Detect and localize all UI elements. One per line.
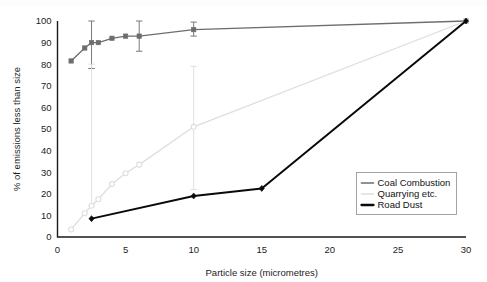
- legend-label-coal-combustion: Coal Combustion: [378, 177, 451, 188]
- y-axis-tick-label: 90: [41, 37, 52, 48]
- x-axis-tick-label: 5: [123, 244, 128, 255]
- x-axis-tick-label: 20: [325, 244, 336, 255]
- y-axis-tick-label: 100: [36, 15, 52, 26]
- legend-label-quarrying-etc: Quarrying etc.: [378, 188, 438, 199]
- y-axis-tick-label: 10: [41, 210, 52, 221]
- y-axis-tick-label: 20: [41, 188, 52, 199]
- data-point-marker: [123, 171, 128, 176]
- error-bar: [88, 64, 94, 205]
- data-point-marker: [137, 162, 142, 167]
- data-point-marker: [69, 227, 74, 232]
- data-point-marker: [109, 182, 114, 187]
- data-point-marker: [89, 203, 94, 208]
- data-point-marker: [83, 46, 87, 50]
- data-point-marker: [82, 211, 87, 216]
- data-point-marker: [191, 124, 196, 129]
- y-axis-tick-label: 50: [41, 123, 52, 134]
- data-point-marker: [137, 34, 141, 38]
- x-axis-title: Particle size (micrometres): [206, 267, 318, 278]
- data-point-marker: [96, 197, 101, 202]
- data-point-marker: [96, 40, 100, 44]
- chart-container: 0102030405060708090100051015202530Partic…: [0, 0, 487, 282]
- x-axis-tick-label: 10: [188, 244, 199, 255]
- data-point-marker: [191, 193, 196, 199]
- series-line-coal-combustion: [71, 21, 466, 61]
- data-point-marker: [69, 59, 73, 63]
- legend-label-road-dust: Road Dust: [378, 199, 423, 210]
- x-axis-tick-label: 15: [256, 244, 267, 255]
- data-point-marker: [191, 27, 195, 31]
- y-axis-tick-label: 60: [41, 102, 52, 113]
- data-point-marker: [110, 36, 114, 40]
- data-point-marker: [89, 216, 94, 222]
- y-axis-tick-label: 80: [41, 59, 52, 70]
- data-point-marker: [123, 34, 127, 38]
- data-point-marker: [89, 40, 93, 44]
- y-axis-tick-label: 40: [41, 145, 52, 156]
- y-axis-tick-label: 30: [41, 167, 52, 178]
- y-axis-tick-label: 0: [46, 231, 51, 242]
- x-axis-tick-label: 30: [461, 244, 472, 255]
- particle-size-chart: 0102030405060708090100051015202530Partic…: [0, 0, 487, 282]
- x-axis-tick-label: 0: [55, 244, 60, 255]
- x-axis-tick-label: 25: [393, 244, 404, 255]
- y-axis-tick-label: 70: [41, 80, 52, 91]
- y-axis-title: % of emissions less than size: [11, 67, 22, 191]
